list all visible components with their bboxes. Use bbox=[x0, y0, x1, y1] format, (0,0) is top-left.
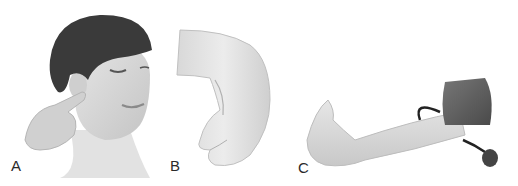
panel-c: C bbox=[295, 0, 518, 186]
face-illustration bbox=[0, 0, 165, 186]
panel-b: B bbox=[165, 0, 295, 186]
arm-with-cuff-illustration bbox=[295, 0, 518, 186]
panel-label-c: C bbox=[298, 159, 309, 176]
panel-label-b: B bbox=[170, 157, 180, 174]
flexed-hand-illustration bbox=[165, 0, 295, 186]
panel-label-a: A bbox=[11, 157, 21, 174]
panel-a: A bbox=[0, 0, 165, 186]
